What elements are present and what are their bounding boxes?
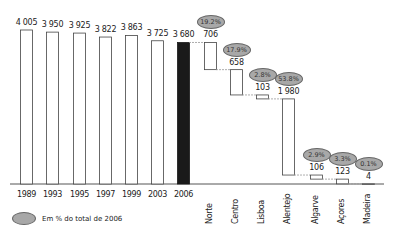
bar-Centro (231, 70, 243, 95)
value-label: 658 (229, 58, 243, 67)
waterfall-chart: 4 00519893 95019933 92519953 82219973 86… (0, 0, 394, 238)
x-tick-label: Centro (231, 199, 240, 224)
value-label: 3 925 (69, 21, 90, 30)
percent-bubble: 2.8% (249, 68, 277, 82)
value-label: 3 680 (173, 30, 194, 39)
percent-bubble: 0.1% (355, 157, 383, 171)
value-label: 3 822 (95, 25, 116, 34)
value-label: 706 (203, 30, 217, 39)
chart-canvas (0, 0, 394, 238)
value-label: 1 980 (278, 87, 299, 96)
value-label: 4 005 (16, 18, 37, 27)
legend-ellipse-icon (12, 212, 36, 225)
x-tick-label: 1993 (43, 190, 62, 199)
bar-1999 (126, 35, 138, 184)
bar-Madeira (363, 184, 375, 185)
percent-bubble: 19.2% (197, 15, 225, 29)
bar-1997 (100, 37, 112, 184)
value-label: 3 950 (42, 20, 63, 29)
bar-Norte (205, 42, 217, 69)
bar-2006 (178, 42, 190, 184)
bar-Açores (337, 179, 349, 184)
value-label: 3 863 (121, 23, 142, 32)
x-tick-label: Norte (205, 203, 214, 224)
bar-1989 (21, 30, 33, 184)
legend-label: Em % do total de 2006 (42, 215, 122, 223)
x-tick-label: Algarve (311, 195, 320, 224)
percent-bubble: 53.8% (275, 72, 303, 86)
bar-2003 (152, 41, 164, 184)
x-tick-label: 1997 (96, 190, 115, 199)
bar-1993 (47, 32, 59, 184)
x-tick-label: 1995 (70, 190, 89, 199)
x-tick-label: 2003 (148, 190, 167, 199)
x-tick-label: Madeira (363, 194, 372, 224)
percent-bubble: 2.9% (303, 148, 331, 162)
x-tick-label: 1999 (122, 190, 141, 199)
x-tick-label: 2006 (174, 190, 193, 199)
x-tick-label: Alentejo (283, 194, 292, 224)
bar-Alentejo (283, 99, 295, 175)
x-tick-label: Açores (337, 199, 346, 224)
value-label: 106 (309, 163, 323, 172)
x-tick-label: 1989 (17, 190, 36, 199)
value-label: 103 (255, 83, 269, 92)
bar-1995 (74, 33, 86, 184)
bar-Algarve (311, 175, 323, 179)
percent-bubble: 17.9% (223, 43, 251, 57)
legend: Em % do total de 2006 (12, 212, 122, 225)
value-label: 123 (335, 167, 349, 176)
value-label: 4 (366, 172, 371, 181)
value-label: 3 725 (147, 29, 168, 38)
percent-bubble: 3.3% (329, 152, 357, 166)
bar-Lisboa (257, 95, 269, 99)
x-tick-label: Lisboa (257, 200, 266, 224)
